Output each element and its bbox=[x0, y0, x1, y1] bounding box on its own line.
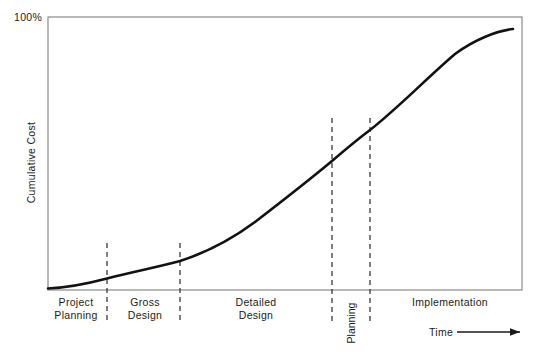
cost-curve-figure: 100% Cumulative Cost Project Planning Gr… bbox=[0, 0, 542, 357]
phase-label-planning: Planning bbox=[345, 289, 357, 357]
y-axis-tick-100: 100% bbox=[14, 11, 42, 24]
phase-label-gross-design: Gross Design bbox=[104, 296, 186, 322]
phase-label-detailed-design: Detailed Design bbox=[214, 296, 298, 322]
time-arrow-icon bbox=[457, 328, 520, 336]
y-axis-title: Cumulative Cost bbox=[25, 108, 38, 218]
x-axis-title: Time bbox=[429, 326, 453, 339]
cumulative-cost-curve bbox=[48, 29, 513, 289]
phase-label-implementation: Implementation bbox=[400, 296, 500, 309]
